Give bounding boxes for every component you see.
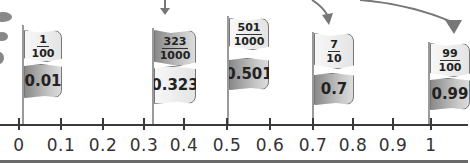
decorative-blob-icon [0, 32, 8, 41]
decimal-value: 0.99 [431, 85, 468, 103]
denominator: 10 [326, 52, 341, 64]
flag-pole [227, 16, 229, 125]
flag-pole [152, 28, 154, 125]
number-line-axis [0, 124, 468, 126]
flag-pole [312, 32, 314, 125]
numerator: 323 [162, 36, 189, 49]
curved-arrow-icon [300, 0, 336, 26]
numerator: 7 [328, 39, 340, 52]
tick-mark [226, 118, 228, 130]
tick-label: 0.9 [379, 135, 408, 155]
tick-label: 0.7 [299, 135, 328, 155]
fraction-flag: 710 [314, 33, 354, 69]
tick-label: 0.2 [89, 135, 118, 155]
fraction-flag: 5011000 [229, 18, 269, 50]
decorative-blob-icon [0, 52, 4, 64]
decimal-value: 0.01 [25, 72, 62, 90]
numerator: 501 [236, 22, 263, 35]
fraction-flag: 99100 [430, 43, 470, 77]
decorative-blob-icon [0, 12, 12, 22]
decimal-flag: 0.501 [229, 58, 269, 90]
tick-mark [430, 118, 432, 130]
fraction-flag: 1100 [24, 30, 62, 62]
tick-label: 0.8 [339, 135, 368, 155]
tick-label: 0.1 [47, 135, 76, 155]
denominator: 100 [439, 61, 462, 73]
decimal-flag: 0.01 [24, 64, 62, 98]
denominator: 100 [32, 47, 55, 59]
fraction-flag: 3231000 [154, 30, 196, 66]
decimal-value: 0.501 [225, 65, 272, 83]
decimal-flag: 0.7 [314, 73, 354, 105]
curved-arrow-icon [360, 0, 468, 36]
tick-label: 0.5 [213, 135, 242, 155]
tick-label: 0.4 [170, 135, 199, 155]
tick-mark [269, 118, 271, 130]
decimal-value: 0.323 [151, 76, 198, 94]
down-arrow-icon [158, 0, 172, 16]
tick-mark [102, 118, 104, 130]
numerator: 99 [440, 48, 459, 61]
denominator: 1000 [160, 49, 191, 61]
tick-mark [352, 118, 354, 130]
numerator: 1 [37, 34, 49, 47]
tick-mark [18, 118, 20, 130]
decimal-flag: 0.99 [430, 78, 470, 110]
bottom-border [0, 160, 468, 163]
flag-pole [22, 25, 24, 125]
flag-pole [428, 42, 430, 125]
tick-mark [183, 118, 185, 130]
tick-label: 0.6 [256, 135, 285, 155]
tick-mark [60, 118, 62, 130]
decimal-value: 0.7 [321, 80, 348, 98]
decimal-flag: 0.323 [154, 66, 196, 104]
tick-mark [143, 118, 145, 130]
tick-mark [312, 118, 314, 130]
tick-label: 1 [425, 135, 436, 155]
tick-label: 0 [13, 135, 24, 155]
tick-mark [392, 118, 394, 130]
tick-label: 0.3 [130, 135, 159, 155]
denominator: 1000 [234, 35, 265, 47]
